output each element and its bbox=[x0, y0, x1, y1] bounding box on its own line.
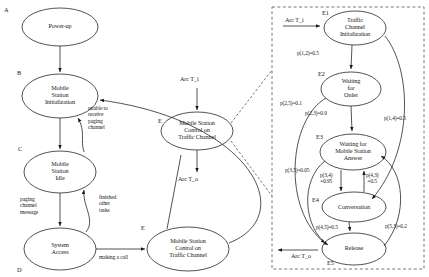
transition-label-p25: p(2,5)=0.1 bbox=[280, 100, 302, 106]
node-label-e1: Traffic Channel Initialization bbox=[330, 17, 380, 38]
edge-label-unable-receive-paging: unable to receive paging channel bbox=[88, 105, 108, 130]
node-label-d: System Access bbox=[34, 242, 86, 256]
arc-label-in-center: Arc T_i bbox=[180, 76, 199, 83]
edge-e2-to-e3 bbox=[351, 106, 352, 131]
node-key-a: A bbox=[4, 6, 9, 13]
arc-label-out-center: Arc T_o bbox=[178, 176, 198, 183]
edge-e1-to-e2 bbox=[351, 45, 352, 69]
transition-label-p34: p(3,4) =0.95 bbox=[320, 172, 332, 184]
node-key-e2: E2 bbox=[318, 70, 325, 77]
node-label-e-bottom: Mobile Station Control on Traffic Channe… bbox=[152, 238, 224, 259]
node-key-e5: E5 bbox=[327, 259, 334, 266]
transition-label-p23: p(2,3)=0.9 bbox=[305, 110, 327, 116]
edge-label-finished-other-tasks: finished other tasks bbox=[99, 194, 116, 213]
edge-center-e-to-bottom-e bbox=[167, 155, 181, 229]
node-key-d: D bbox=[17, 266, 22, 273]
node-key-e3: E3 bbox=[316, 133, 323, 140]
node-key-e1: E1 bbox=[322, 9, 329, 16]
edge-e4-to-e5 bbox=[349, 222, 350, 231]
node-label-e5: Release bbox=[334, 245, 374, 252]
node-key-c: C bbox=[18, 145, 22, 152]
edge-finished-other-tasks bbox=[84, 190, 90, 232]
expansion-connector-top bbox=[231, 70, 272, 123]
node-label-e3: Waiting for Mobile Station Answer bbox=[323, 141, 383, 162]
transition-label-p35: p(3,5)=0.05 bbox=[285, 167, 309, 173]
arc-label-out-right: Arc T_o bbox=[291, 253, 311, 260]
arc-label-in-right: Arc T_i bbox=[285, 17, 304, 24]
node-label-a: Power-up bbox=[32, 23, 88, 30]
transition-label-p12: p(1,2)=0.5 bbox=[297, 50, 319, 56]
edge-label-making-a-call: making a call bbox=[99, 254, 128, 260]
transition-label-p45: p(4,5)=0.5 bbox=[316, 224, 338, 230]
node-label-e4: Conversation bbox=[325, 204, 383, 211]
transition-label-p14: p(1,4)=0.5 bbox=[384, 115, 406, 121]
transition-label-p43: p(4,3) =0.5 bbox=[366, 172, 378, 184]
node-label-b: Mobile Station Initialization bbox=[30, 85, 90, 106]
node-label-e2: Waiting for Order bbox=[330, 78, 372, 99]
edge-label-paging-channel-message: paging channel message bbox=[20, 196, 38, 215]
diagram-canvas: A B C D E Power-up Mobile Station Initia… bbox=[0, 0, 429, 277]
node-key-b: B bbox=[17, 69, 21, 76]
node-label-c: Mobile Station Idle bbox=[32, 161, 88, 182]
node-key-e-bottom: E bbox=[141, 224, 145, 231]
edge-unable-receive-paging bbox=[78, 118, 84, 152]
expansion-connector-bottom bbox=[231, 141, 272, 196]
node-key-e4: E4 bbox=[312, 196, 319, 203]
transition-label-p53: p(5,3)=0.2 bbox=[385, 223, 407, 229]
node-label-e-center: Mobile Station Control on Traffic Channe… bbox=[161, 120, 233, 141]
